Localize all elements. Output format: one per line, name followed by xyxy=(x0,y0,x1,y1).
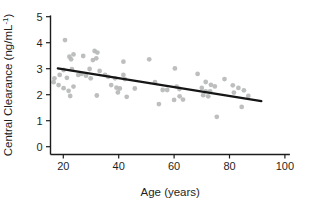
data-point xyxy=(172,98,177,103)
data-point xyxy=(81,54,86,59)
data-point xyxy=(147,57,152,62)
data-point xyxy=(71,52,76,57)
data-point xyxy=(236,86,241,91)
x-tick-label: 60 xyxy=(168,160,180,172)
y-tick-label: 3 xyxy=(36,63,42,75)
data-point xyxy=(88,76,93,81)
data-point xyxy=(222,77,227,82)
y-tick-label: 1 xyxy=(36,115,42,127)
x-tick-label: 40 xyxy=(113,160,125,172)
data-point xyxy=(71,84,76,89)
data-point xyxy=(132,86,137,91)
y-tick-label: 2 xyxy=(36,89,42,101)
data-point xyxy=(181,97,186,102)
y-tick-label: 0 xyxy=(36,141,42,153)
data-point xyxy=(199,86,204,91)
data-point xyxy=(201,93,206,98)
data-point xyxy=(57,73,62,78)
x-tick-label: 20 xyxy=(57,160,69,172)
data-point xyxy=(56,83,61,88)
data-point xyxy=(230,83,235,88)
data-point xyxy=(94,93,99,98)
data-point xyxy=(116,90,121,95)
data-point xyxy=(121,59,126,64)
data-point xyxy=(121,73,126,78)
data-point xyxy=(97,69,102,74)
data-point xyxy=(203,80,208,85)
data-point xyxy=(232,90,237,95)
x-tick-label: 80 xyxy=(223,160,235,172)
y-tick-label: 4 xyxy=(36,37,42,49)
data-point xyxy=(95,50,100,55)
data-point xyxy=(239,105,244,110)
x-axis-title: Age (years) xyxy=(140,186,200,198)
data-point xyxy=(206,94,211,99)
y-tick-label: 5 xyxy=(36,11,42,23)
data-point xyxy=(173,66,178,71)
scatter-chart: 20406080100012345Age (years)Central Clea… xyxy=(0,0,315,213)
data-point xyxy=(51,80,56,85)
figure: 20406080100012345Age (years)Central Clea… xyxy=(0,0,315,213)
data-point xyxy=(65,75,70,80)
data-point xyxy=(246,94,251,99)
data-point xyxy=(87,67,92,72)
data-point xyxy=(69,57,74,62)
data-point xyxy=(195,72,200,77)
data-point xyxy=(124,94,129,99)
data-point xyxy=(68,94,73,99)
data-point xyxy=(61,86,66,91)
x-tick-label: 100 xyxy=(276,160,294,172)
data-point xyxy=(212,84,217,89)
data-point xyxy=(157,102,162,107)
data-point xyxy=(94,56,99,61)
data-point xyxy=(242,88,247,93)
data-point xyxy=(66,88,71,93)
y-axis-title: Central Clearance (ng/mL-1) xyxy=(1,13,14,156)
data-point xyxy=(63,38,68,43)
data-point xyxy=(165,88,170,93)
plot-background xyxy=(0,0,315,213)
data-point xyxy=(214,114,219,119)
data-point xyxy=(160,88,165,93)
data-point xyxy=(109,83,114,88)
